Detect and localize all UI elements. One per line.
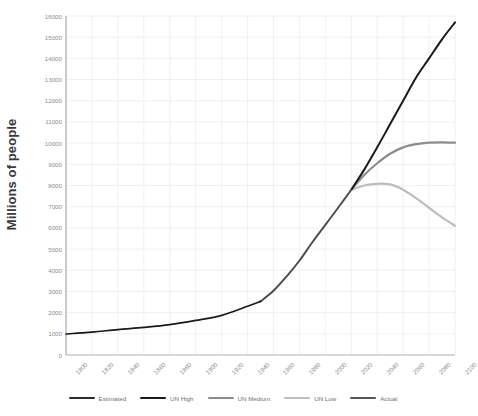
legend-swatch-icon (140, 397, 166, 400)
x-axis-tick-label: 1800 (74, 361, 89, 376)
legend-swatch-icon (350, 397, 376, 400)
legend-item[interactable]: UN Low (284, 395, 336, 402)
x-axis-tick-label: 2080 (437, 361, 452, 376)
legend-item[interactable]: Actual (350, 395, 397, 402)
x-axis-tick-label: 1960 (281, 361, 296, 376)
x-axis-tick-label: 1920 (230, 361, 245, 376)
x-axis-tick-label: 1860 (152, 361, 167, 376)
x-axis-tick-label: 2000 (333, 361, 348, 376)
x-axis-tick-label: 2040 (385, 361, 400, 376)
legend-item-label: Actual (380, 395, 397, 402)
x-axis-tick-label: 1940 (256, 361, 271, 376)
legend-item-label: UN High (170, 395, 193, 402)
legend-item-label: Estimated (99, 395, 127, 402)
legend-swatch-icon (208, 397, 234, 400)
legend-item-label: UN Medium (238, 395, 271, 402)
chart-legend: EstimatedUN HighUN MediumUN LowActual (0, 388, 466, 408)
legend-item[interactable]: UN Medium (208, 395, 271, 402)
legend-item[interactable]: Estimated (69, 395, 127, 402)
legend-item[interactable]: UN High (140, 395, 193, 402)
x-axis-tick-label: 1880 (178, 361, 193, 376)
x-axis-tick-label: 2020 (359, 361, 374, 376)
legend-swatch-icon (69, 397, 95, 400)
x-axis-tick-label: 2060 (411, 361, 426, 376)
legend-item-label: UN Low (314, 395, 336, 402)
x-axis-tick-label: 1980 (307, 361, 322, 376)
x-axis-tick-label: 1840 (126, 361, 141, 376)
x-axis-tick-label: 1820 (100, 361, 115, 376)
legend-swatch-icon (284, 397, 310, 400)
x-axis-tick-label: 2100 (463, 361, 478, 376)
x-axis-tick-label: 1900 (204, 361, 219, 376)
